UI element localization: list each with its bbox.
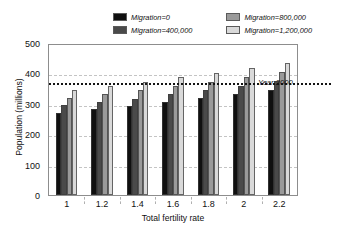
- x-axis-tick-label: 1.2: [96, 199, 109, 209]
- x-axis-group-separator: [120, 197, 121, 204]
- x-axis-group-separator: [191, 197, 192, 204]
- bar-group-1.4: [127, 45, 149, 195]
- legend-item-3: Migration=1,200,000: [226, 26, 333, 35]
- bar: [108, 86, 113, 195]
- legend-item-label: Migration=0: [131, 13, 170, 22]
- legend-item-1: Migration=400,000: [113, 26, 213, 35]
- legend-item-label: Migration=400,000: [131, 26, 192, 35]
- legend-item-label: Migration=800,000: [244, 13, 305, 22]
- y-axis-label: Population (millions): [14, 42, 24, 192]
- legend-swatch-icon: [113, 13, 127, 21]
- legend-item-label: Migration=1,200,000: [244, 26, 312, 35]
- legend-swatch-icon: [226, 26, 240, 34]
- x-axis-tick-label: 1: [64, 199, 69, 209]
- x-axis-group-separator: [226, 197, 227, 204]
- bar: [249, 68, 254, 195]
- x-axis-label: Total fertility rate: [48, 213, 298, 223]
- bar-group-1.2: [91, 45, 113, 195]
- plot-area: [48, 44, 298, 196]
- legend-swatch-icon: [226, 13, 240, 21]
- bar: [214, 73, 219, 195]
- x-axis-tick-label: 1.8: [202, 199, 215, 209]
- x-axis-group-separator: [84, 197, 85, 204]
- x-axis-tick-label: 2: [241, 199, 246, 209]
- x-axis-tick-label: 1.4: [131, 199, 144, 209]
- legend-swatch-icon: [113, 26, 127, 34]
- bar-group-1.8: [198, 45, 220, 195]
- bar-group-1: [56, 45, 78, 195]
- legend-item-0: Migration=0: [113, 13, 213, 22]
- year-2000-reference-label: Year 2000: [258, 78, 293, 87]
- chart-legend: Migration=0Migration=800,000Migration=40…: [113, 11, 333, 36]
- bar-group-1.6: [162, 45, 184, 195]
- bar: [178, 77, 183, 195]
- bar: [143, 82, 148, 195]
- x-axis-group-separator: [262, 197, 263, 204]
- bar-groups: [49, 45, 297, 195]
- x-axis-tick-label: 1.6: [167, 199, 180, 209]
- chart-figure: Migration=0Migration=800,000Migration=40…: [0, 0, 344, 246]
- bar-group-2: [233, 45, 255, 195]
- x-axis-tick-label: 2.2: [273, 199, 286, 209]
- x-axis-group-separator: [155, 197, 156, 204]
- bar: [72, 90, 77, 195]
- y-axis-tick-label: 0: [0, 191, 40, 201]
- bar-group-2.2: [268, 45, 290, 195]
- legend-item-2: Migration=800,000: [226, 13, 333, 22]
